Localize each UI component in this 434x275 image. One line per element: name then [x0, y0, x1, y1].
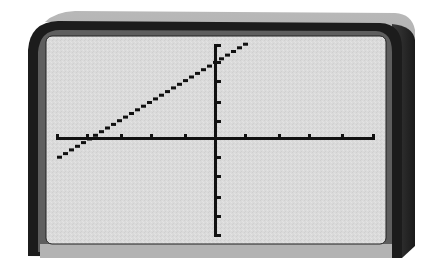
graph-display: [0, 0, 434, 275]
calculator-screen-frame: [0, 0, 434, 275]
bezel-bottom-ledge: [40, 244, 392, 258]
